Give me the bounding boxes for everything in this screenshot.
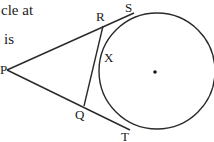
- question-text-line1: cle at: [1, 2, 34, 18]
- label-q: Q: [75, 107, 85, 122]
- label-x: X: [104, 50, 114, 65]
- tangent-diagram: cle at is P R S X Q T: [0, 0, 214, 142]
- label-t: T: [121, 129, 129, 142]
- question-text-line2: is: [4, 31, 14, 47]
- tangent-line-rq: [84, 26, 103, 106]
- label-s: S: [125, 0, 132, 15]
- label-r: R: [96, 9, 105, 24]
- circle: [99, 13, 214, 129]
- circle-center-dot: [153, 70, 157, 74]
- tangent-line-ps: [7, 13, 134, 70]
- geometry-figure: cle at is P R S X Q T: [0, 0, 214, 142]
- tangent-line-pt: [7, 70, 130, 130]
- label-p: P: [0, 62, 7, 77]
